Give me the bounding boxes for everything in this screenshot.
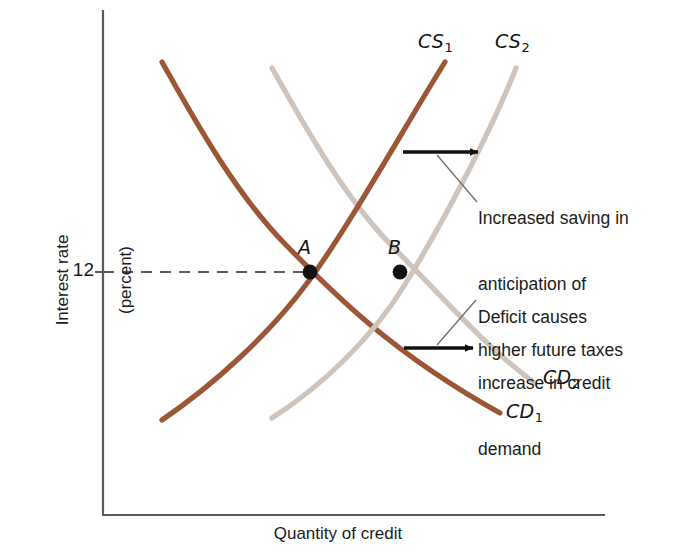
deficit-annotation-line3: demand — [478, 438, 610, 460]
equilibrium-point-b-dot — [393, 265, 408, 280]
curve-label-cs2-sub: 2 — [522, 40, 530, 55]
x-axis-title: Quantity of credit — [0, 524, 676, 544]
deficit-note-leader-line — [437, 300, 476, 345]
y-axis-title-line2: (percent) — [115, 200, 136, 360]
curve-label-cs1-sub: 1 — [445, 40, 453, 55]
equilibrium-point-a-label: A — [298, 236, 311, 258]
curve-label-cs2-base: CS — [495, 30, 521, 52]
curve-label-cs2: CS2 — [495, 30, 530, 52]
economics-credit-market-figure: Interest rate (percent) 12 Quantity of c… — [0, 0, 676, 558]
y-axis-title: Interest rate (percent) — [10, 200, 178, 360]
deficit-annotation: Deficit causes increase in credit demand — [478, 262, 610, 504]
deficit-annotation-line1: Deficit causes — [478, 306, 610, 328]
curve-label-cs1: CS1 — [418, 30, 453, 52]
equilibrium-point-a-dot — [303, 265, 318, 280]
curve-label-cs1-base: CS — [418, 30, 444, 52]
y-tick-label-12: 12 — [60, 259, 94, 281]
deficit-annotation-line2: increase in credit — [478, 372, 610, 394]
curve-cd1 — [162, 62, 500, 413]
saving-annotation-line1: Increased saving in — [478, 207, 629, 229]
equilibrium-point-b-label: B — [388, 236, 401, 258]
